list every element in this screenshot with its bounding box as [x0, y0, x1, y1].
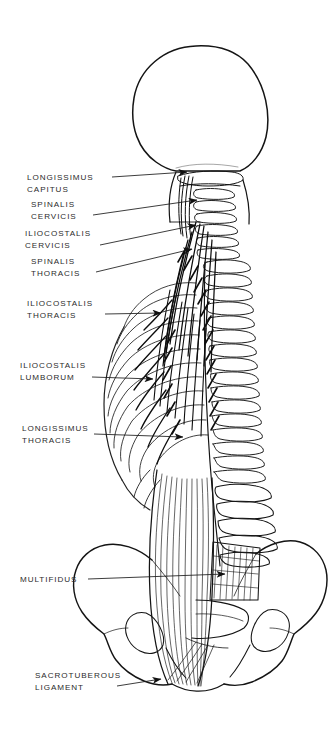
- vertebral-column: [203, 260, 277, 567]
- label-iliocostalis-cervicis-line2: CERVICIS: [25, 241, 71, 250]
- leader-sacrotuberous-ligament: [117, 679, 161, 686]
- label-sacrotuberous-ligament-line1: SACROTUBEROUS: [35, 671, 121, 680]
- erector-spinae-illustration: LONGISSIMUS CAPITUS SPINALIS CERVICIS IL…: [0, 0, 332, 732]
- erector-spinae-fibers: [134, 176, 219, 464]
- label-iliocostalis-cervicis-line1: ILIOCOSTALIS: [25, 229, 91, 238]
- leader-multifidus: [88, 574, 225, 579]
- pelvis: [74, 541, 327, 691]
- label-sacrotuberous-ligament-line2: LIGAMENT: [35, 683, 84, 692]
- skull-outline: [133, 46, 268, 171]
- multifidus-region: [210, 542, 260, 600]
- erector-spinae-aponeurosis: [149, 470, 213, 686]
- leader-longissimus-capitus: [112, 172, 187, 177]
- label-iliocostalis-lumborum-line2: LUMBORUM: [20, 373, 75, 382]
- label-spinalis-cervicis-line2: CERVICIS: [31, 212, 77, 221]
- label-longissimus-thoracis-line1: LONGISSIMUS: [22, 424, 89, 433]
- sacrum: [186, 600, 249, 648]
- label-spinalis-thoracis-line1: SPINALIS: [31, 257, 75, 266]
- label-longissimus-capitus-line2: CAPITUS: [27, 185, 69, 194]
- label-iliocostalis-thoracis-line2: THORACIS: [27, 311, 76, 320]
- anatomy-figure: LONGISSIMUS CAPITUS SPINALIS CERVICIS IL…: [0, 0, 332, 732]
- leader-spinalis-thoracis: [96, 249, 192, 272]
- leader-iliocostalis-thoracis: [105, 313, 161, 314]
- leader-iliocostalis-cervicis: [100, 225, 196, 245]
- label-iliocostalis-lumborum-line1: ILIOCOSTALIS: [20, 361, 86, 370]
- label-longissimus-thoracis-line2: THORACIS: [22, 436, 71, 445]
- label-iliocostalis-thoracis-line1: ILIOCOSTALIS: [27, 299, 93, 308]
- label-multifidus: MULTIFIDUS: [20, 575, 77, 584]
- label-longissimus-capitus-line1: LONGISSIMUS: [27, 173, 94, 182]
- label-spinalis-thoracis-line2: THORACIS: [31, 269, 80, 278]
- label-spinalis-cervicis-line1: SPINALIS: [31, 200, 75, 209]
